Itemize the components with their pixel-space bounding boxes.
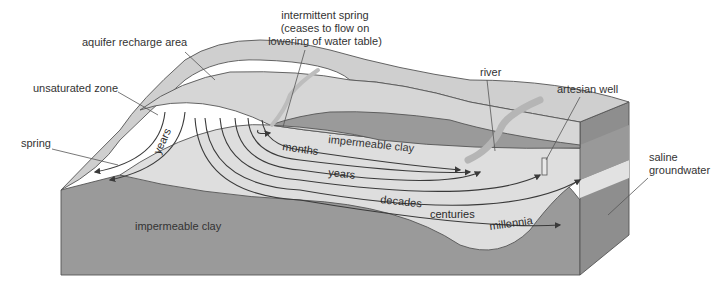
label-saline-2: groundwater bbox=[649, 164, 710, 176]
label-aquifer-recharge-area: aquifer recharge area bbox=[82, 36, 188, 48]
label-river: river bbox=[480, 66, 502, 78]
label-intermittent-spring-3: lowering of water table) bbox=[268, 35, 382, 47]
groundwater-diagram: years months years decades centuries mil… bbox=[0, 0, 724, 292]
label-intermittent-spring-2: (ceases to flow on bbox=[281, 22, 370, 34]
label-spring: spring bbox=[21, 137, 51, 149]
label-intermittent-spring-1: intermittent spring bbox=[281, 9, 368, 21]
label-unsaturated-zone: unsaturated zone bbox=[33, 82, 118, 94]
artesian-well bbox=[542, 158, 547, 175]
label-impermeable-clay-lower: impermeable clay bbox=[135, 220, 222, 232]
flow-label-centuries: centuries bbox=[430, 208, 475, 220]
label-saline-1: saline bbox=[649, 151, 678, 163]
label-artesian-well: artesian well bbox=[557, 83, 618, 95]
